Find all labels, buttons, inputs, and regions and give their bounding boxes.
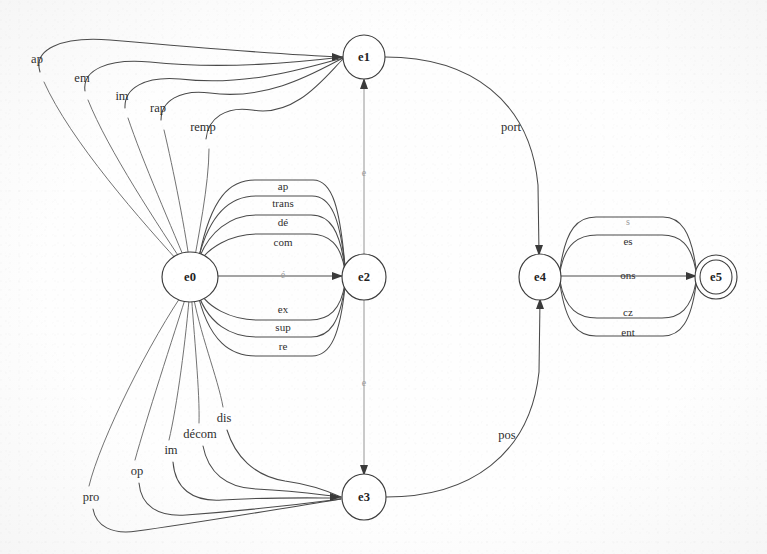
- edge-e0-e1-rap: [161, 58, 343, 120]
- edge-label-com: com: [274, 236, 293, 248]
- edge-label-ex: ex: [278, 303, 289, 315]
- edge-e0-e2-ex: [194, 281, 345, 320]
- edge-label-pos: pos: [498, 428, 516, 442]
- edge-e0-e1-ap: [39, 39, 343, 72]
- edge-e0-e3-dis-tail: [192, 289, 223, 407]
- edge-label-re: re: [279, 340, 288, 352]
- edge-e0-e2-re: [196, 286, 345, 356]
- edge-label-em: em: [74, 71, 90, 85]
- edge-label-trans: trans: [272, 197, 293, 209]
- edge-label-de: dé: [278, 216, 289, 228]
- state-node-e0[interactable]: e0: [162, 252, 218, 302]
- state-label-e0: e0: [184, 270, 196, 284]
- state-label-e5: e5: [710, 270, 722, 284]
- edge-e0-e2-com: [194, 234, 345, 273]
- edge-label-ap-e2: ap: [278, 180, 289, 192]
- edge-label-decom: décom: [183, 427, 217, 441]
- edge-label-es: es: [623, 235, 632, 247]
- edge-e0-e3-dis: [227, 430, 341, 497]
- edge-e0-e2-trans: [196, 196, 345, 269]
- state-node-e3[interactable]: e3: [342, 474, 386, 520]
- edge-label-cz: cz: [623, 306, 633, 318]
- edge-label-sup: sup: [275, 321, 291, 333]
- state-label-e3: e3: [358, 490, 370, 504]
- edge-label-rap: rap: [150, 101, 166, 115]
- edge-e0-e1-ap-tail: [44, 82, 188, 272]
- arrowhead-e0-e2: [332, 272, 343, 280]
- state-node-e1[interactable]: e1: [343, 35, 385, 79]
- state-nodes: e0 e1 e2 e3 e4 e5: [162, 35, 737, 520]
- edge-labels-e0-e2: ap trans dé com é ex sup re: [272, 180, 293, 352]
- edge-e0-e1-remp: [206, 59, 343, 139]
- edge-labels-e4-e5: s es ons cz ent: [620, 216, 635, 339]
- state-label-e1: e1: [358, 50, 370, 64]
- edge-e0-e3-decom-tail: [191, 289, 199, 423]
- edge-label-ap-e1: ap: [31, 52, 43, 66]
- state-label-e4: e4: [534, 270, 547, 284]
- edge-e0-e2-sup: [195, 284, 345, 337]
- edge-label-im-e1: im: [115, 89, 128, 103]
- state-node-e4[interactable]: e4: [519, 254, 561, 300]
- edge-label-dis: dis: [217, 411, 232, 425]
- state-label-e2: e2: [358, 270, 370, 284]
- edge-label-e-middle: é: [281, 269, 286, 280]
- diagram-canvas: e0 e1 e2 e3 e4 e5: [0, 0, 767, 554]
- edge-e0-e2-ap: [197, 180, 345, 268]
- edge-e0-e1-rap-tail: [164, 130, 191, 273]
- edge-e0-e1-em: [85, 57, 343, 91]
- edge-label-port: port: [501, 120, 522, 134]
- edge-label-e2-e3: e: [362, 377, 367, 388]
- state-node-e5-accepting[interactable]: e5: [695, 255, 737, 299]
- edge-e0-e2-de: [195, 215, 345, 271]
- edge-group-e0-e3: [89, 286, 341, 532]
- automaton-diagram: e0 e1 e2 e3 e4 e5: [0, 0, 767, 554]
- edge-label-im-e3: im: [164, 443, 177, 457]
- edge-e0-e3-im-tail: [169, 288, 190, 440]
- edge-label-ons: ons: [620, 269, 635, 281]
- arrowhead-e2-e1: [360, 78, 368, 89]
- edge-label-e2-e1: e: [362, 167, 367, 178]
- edge-label-pro: pro: [83, 490, 100, 504]
- edge-e3-e4-pos: [386, 300, 540, 497]
- edge-label-remp: remp: [190, 120, 216, 134]
- edge-e1-e4-port: [385, 57, 539, 254]
- edge-label-op: op: [131, 464, 144, 478]
- edge-label-s: s: [626, 216, 630, 227]
- edge-e0-e1-em-tail: [88, 100, 189, 272]
- edge-e0-e1-im-tail: [128, 118, 190, 272]
- edge-labels-e0-e3: pro op im décom dis: [83, 411, 232, 504]
- state-node-e2[interactable]: e2: [342, 254, 386, 300]
- edge-label-ent: ent: [621, 326, 634, 338]
